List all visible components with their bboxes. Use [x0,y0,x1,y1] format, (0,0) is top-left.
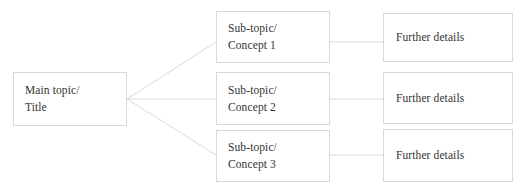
node-sub-topic-1-line1: Sub-topic/ [228,20,323,37]
node-sub-topic-3-line1: Sub-topic/ [228,139,323,156]
node-sub-topic-3[interactable]: Sub-topic/ Concept 3 [216,130,330,182]
node-further-details-3[interactable]: Further details [383,129,513,182]
node-further-details-1[interactable]: Further details [383,13,513,62]
node-sub-topic-2[interactable]: Sub-topic/ Concept 2 [216,72,330,125]
node-further-details-2-label: Further details [396,90,506,107]
node-main-topic[interactable]: Main topic/ Title [13,72,127,126]
node-sub-topic-2-line1: Sub-topic/ [228,82,323,99]
node-main-topic-line1: Main topic/ [25,82,120,99]
node-main-topic-line2: Title [25,99,120,116]
root-to-sub-3 [127,99,216,155]
node-further-details-3-label: Further details [396,147,506,164]
node-further-details-2[interactable]: Further details [383,72,513,124]
root-to-sub-1 [127,42,216,99]
mind-map-diagram: Main topic/ Title Sub-topic/ Concept 1 S… [0,0,525,192]
node-sub-topic-3-line2: Concept 3 [228,156,323,173]
node-further-details-1-label: Further details [396,29,506,46]
node-sub-topic-2-line2: Concept 2 [228,99,323,116]
node-sub-topic-1-line2: Concept 1 [228,37,323,54]
node-sub-topic-1[interactable]: Sub-topic/ Concept 1 [216,11,330,63]
